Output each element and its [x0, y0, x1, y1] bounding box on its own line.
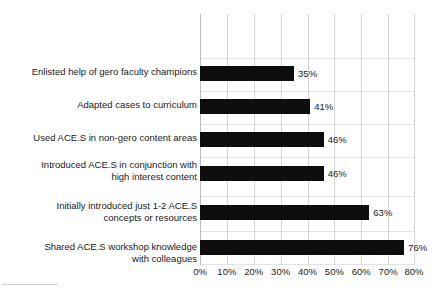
- bar-value-label: 46%: [328, 166, 347, 181]
- category-axis-labels: Enlisted help of gero faculty champions …: [0, 14, 197, 265]
- bar: [200, 240, 404, 255]
- bar-value-label: 46%: [328, 132, 347, 147]
- bar-value-label: 41%: [314, 99, 333, 114]
- x-tick-label: 10%: [217, 266, 236, 277]
- x-axis: 0% 10% 20% 30% 40% 50% 60% 70% 80%: [200, 266, 415, 282]
- x-tick-label: 50%: [325, 266, 344, 277]
- bar: [200, 166, 324, 181]
- page-footer-rule: [2, 284, 58, 285]
- x-tick-label: 0%: [193, 266, 207, 277]
- bar-value-label: 35%: [298, 66, 317, 81]
- bar: [200, 99, 310, 114]
- x-tick-label: 70%: [379, 266, 398, 277]
- bar: [200, 66, 294, 81]
- x-tick-label: 20%: [244, 266, 263, 277]
- x-tick-label: 30%: [271, 266, 290, 277]
- category-label: Adapted cases to curriculum: [0, 99, 197, 111]
- bar: [200, 132, 324, 147]
- plot-area: 35% 41% 46% 46% 63% 76%: [200, 14, 415, 265]
- bar-chart-figure: Enlisted help of gero faculty champions …: [0, 0, 443, 298]
- x-tick-label: 60%: [352, 266, 371, 277]
- bar-series: 35% 41% 46% 46% 63% 76%: [200, 14, 415, 265]
- category-label: Introduced ACE.S in conjunction with hig…: [0, 159, 197, 182]
- x-tick-label: 80%: [404, 266, 423, 277]
- category-label: Initially introduced just 1-2 ACE.S conc…: [0, 200, 197, 223]
- category-label: Enlisted help of gero faculty champions: [0, 66, 197, 78]
- x-tick-label: 40%: [298, 266, 317, 277]
- bar: [200, 205, 369, 220]
- category-label: Used ACE.S in non-gero content areas: [0, 132, 197, 144]
- bar-value-label: 76%: [408, 240, 427, 255]
- bar-value-label: 63%: [373, 205, 392, 220]
- category-label: Shared ACE.S workshop knowledge with col…: [0, 241, 197, 264]
